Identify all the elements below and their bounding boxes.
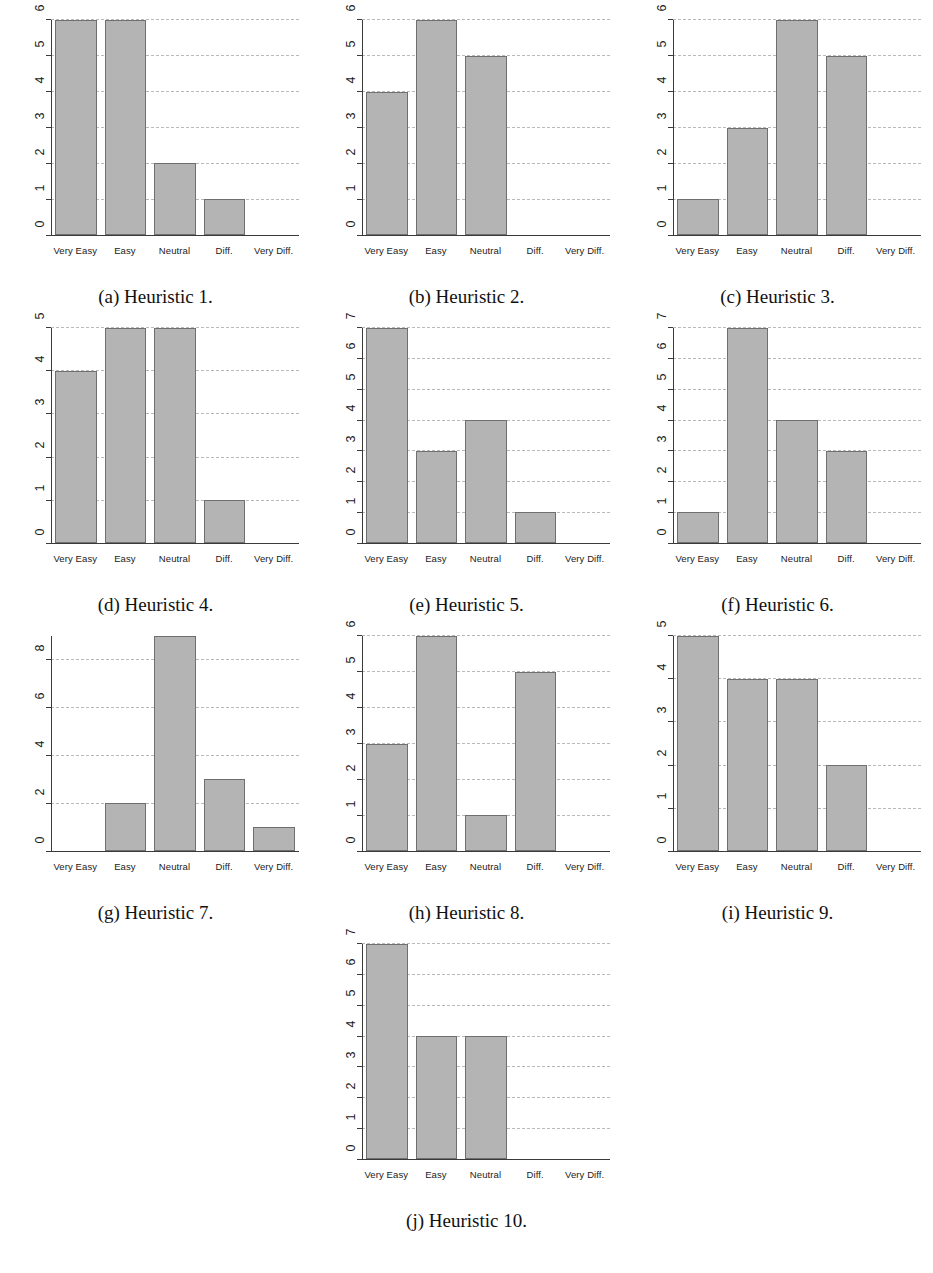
x-axis-labels: Very EasyEasyNeutralDiff.Very Diff. (673, 245, 921, 256)
bar-slot (461, 944, 510, 1159)
x-axis-line (362, 851, 610, 852)
x-axis-line (673, 851, 921, 852)
y-tick-label: 2 (34, 788, 47, 795)
bar-slot (363, 20, 412, 235)
plot-area: 012345 (51, 328, 299, 544)
x-tick-label: Very Diff. (249, 861, 299, 872)
x-tick-label: Very Easy (362, 553, 412, 564)
figure-cell-heuristic-6: 01234567Very EasyEasyNeutralDiff.Very Di… (622, 308, 933, 616)
y-tick-label: 2 (345, 148, 358, 155)
bar-slot (511, 20, 560, 235)
y-tick-label: 4 (345, 76, 358, 83)
bar-slot (249, 328, 298, 543)
bar-neutral (776, 679, 818, 851)
y-tick-label: 5 (656, 374, 669, 381)
y-tick-label: 6 (345, 959, 358, 966)
figure-cell-heuristic-9: 012345Very EasyEasyNeutralDiff.Very Diff… (622, 616, 933, 924)
x-tick-label: Diff. (821, 553, 871, 564)
bar-easy (416, 20, 458, 235)
y-tick-label: 5 (656, 40, 669, 47)
bar-slot (150, 636, 199, 851)
bar-very-easy (677, 199, 719, 235)
plot-area: 02468 (51, 636, 299, 852)
bar-diff (204, 500, 246, 543)
bar-chart-heuristic-2: 0123456Very EasyEasyNeutralDiff.Very Dif… (318, 8, 616, 280)
x-tick-label: Easy (411, 1169, 461, 1180)
bar-slot (412, 944, 461, 1159)
bar-neutral (776, 20, 818, 235)
y-tick-label: 1 (34, 485, 47, 492)
bar-chart-heuristic-6: 01234567Very EasyEasyNeutralDiff.Very Di… (629, 316, 927, 588)
bars-layer (363, 636, 610, 851)
bar-slot (150, 328, 199, 543)
y-tick-label: 3 (34, 112, 47, 119)
x-tick-label: Very Diff. (560, 553, 610, 564)
bar-diff (826, 765, 868, 851)
y-tick-label: 3 (345, 435, 358, 442)
bars-layer (363, 20, 610, 235)
x-tick-label: Neutral (772, 553, 822, 564)
x-axis-line (362, 1159, 610, 1160)
bar-very-easy (677, 636, 719, 851)
bar-chart-heuristic-5: 01234567Very EasyEasyNeutralDiff.Very Di… (318, 316, 616, 588)
x-tick-label: Very Easy (673, 553, 723, 564)
bar-slot (200, 636, 249, 851)
y-tick-label: 0 (656, 836, 669, 843)
y-tick-label: 0 (656, 220, 669, 227)
bar-chart-heuristic-7: 02468Very EasyEasyNeutralDiff.Very Diff. (7, 624, 305, 896)
plot-area: 01234567 (362, 944, 610, 1160)
x-tick-label: Neutral (150, 245, 200, 256)
x-axis-labels: Very EasyEasyNeutralDiff.Very Diff. (673, 553, 921, 564)
y-tick-label: 4 (34, 355, 47, 362)
bar-chart-heuristic-9: 012345Very EasyEasyNeutralDiff.Very Diff… (629, 624, 927, 896)
x-axis-labels: Very EasyEasyNeutralDiff.Very Diff. (51, 553, 299, 564)
x-tick-label: Diff. (821, 245, 871, 256)
y-tick-label: 3 (656, 706, 669, 713)
x-tick-label: Diff. (821, 861, 871, 872)
bar-slot (52, 328, 101, 543)
bar-chart-heuristic-10: 01234567Very EasyEasyNeutralDiff.Very Di… (318, 932, 616, 1204)
bar-slot (674, 20, 723, 235)
bar-chart-heuristic-4: 012345Very EasyEasyNeutralDiff.Very Diff… (7, 316, 305, 588)
x-tick-label: Neutral (461, 1169, 511, 1180)
x-tick-label: Very Diff. (560, 1169, 610, 1180)
subfigure-caption: (f) Heuristic 6. (721, 594, 833, 616)
x-tick-label: Very Diff. (871, 245, 921, 256)
x-tick-label: Easy (411, 861, 461, 872)
bar-slot (772, 328, 821, 543)
x-axis-line (362, 235, 610, 236)
bars-layer (363, 944, 610, 1159)
bar-slot (249, 636, 298, 851)
x-axis-labels: Very EasyEasyNeutralDiff.Very Diff. (51, 861, 299, 872)
bar-slot (674, 636, 723, 851)
bar-slot (412, 20, 461, 235)
bar-very-easy (55, 371, 97, 543)
bar-slot (871, 636, 920, 851)
bar-slot (822, 328, 871, 543)
bar-slot (772, 20, 821, 235)
figure-cell-heuristic-7: 02468Very EasyEasyNeutralDiff.Very Diff.… (0, 616, 311, 924)
bar-easy (105, 20, 147, 235)
bar-slot (412, 636, 461, 851)
y-tick-label: 4 (345, 692, 358, 699)
x-tick-label: Easy (411, 553, 461, 564)
bars-layer (363, 328, 610, 543)
bar-very-easy (55, 20, 97, 235)
y-tick-label: 3 (656, 435, 669, 442)
bar-diff (515, 672, 557, 851)
bar-slot (560, 944, 609, 1159)
x-axis-line (673, 235, 921, 236)
y-tick-label: 0 (345, 1144, 358, 1151)
bar-slot (412, 328, 461, 543)
bar-slot (101, 328, 150, 543)
x-tick-label: Easy (411, 245, 461, 256)
y-tick-label: 0 (34, 528, 47, 535)
x-tick-label: Neutral (150, 861, 200, 872)
x-tick-label: Neutral (461, 245, 511, 256)
x-axis-line (51, 235, 299, 236)
x-tick-label: Very Easy (673, 245, 723, 256)
figure-cell-heuristic-1: 0123456Very EasyEasyNeutralDiff.Very Dif… (0, 0, 311, 308)
x-tick-label: Very Easy (362, 861, 412, 872)
y-tick-label: 4 (34, 740, 47, 747)
y-tick-label: 0 (656, 528, 669, 535)
